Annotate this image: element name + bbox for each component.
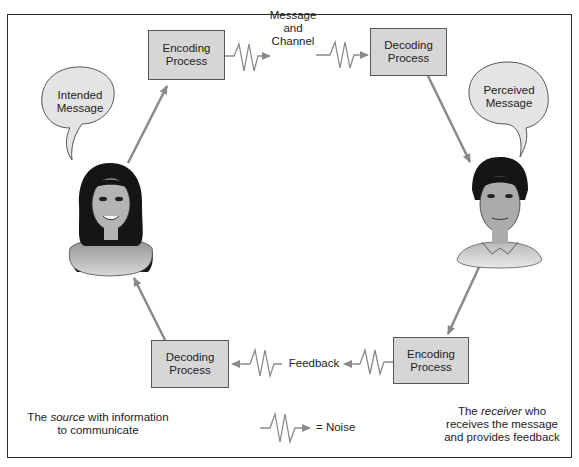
caption-post: with information xyxy=(85,411,169,423)
receiver-caption-line3: and provides feedback xyxy=(437,431,567,444)
encoding-process-box-top: Encoding Process xyxy=(148,30,225,80)
box-label-line2: Process xyxy=(163,55,211,68)
decoding-process-box-top: Decoding Process xyxy=(370,28,447,76)
channel-label-line1: Message xyxy=(268,9,318,22)
channel-label-line3: Channel xyxy=(268,35,318,48)
box-label-line2: Process xyxy=(166,364,215,377)
source-caption-line1: The source with information xyxy=(22,411,174,424)
receiver-caption-line2: receives the message xyxy=(437,418,567,431)
caption-emphasis: source xyxy=(50,411,85,423)
arrow-source-to-encoding xyxy=(128,86,167,163)
diagram-canvas xyxy=(0,0,579,467)
box-label-line1: Encoding xyxy=(407,348,455,361)
encoding-process-box-bottom: Encoding Process xyxy=(393,337,469,384)
box-label-line2: Process xyxy=(407,361,455,374)
arrow-decoding-to-receiver xyxy=(428,76,470,162)
box-label-line2: Process xyxy=(384,52,433,65)
channel-label-line2: and xyxy=(268,22,318,35)
arrow-receiver-to-encoding xyxy=(448,265,480,334)
source-caption: The source with information to communica… xyxy=(22,411,174,437)
bubble-line2: Message xyxy=(50,102,110,115)
bubble-line1: Perceived xyxy=(478,84,540,97)
box-label-line1: Decoding xyxy=(166,351,215,364)
caption-pre: The xyxy=(458,405,481,417)
source-caption-line2: to communicate xyxy=(22,424,174,437)
box-label-line1: Encoding xyxy=(163,42,211,55)
feedback-label: Feedback xyxy=(286,357,342,370)
caption-post: who xyxy=(522,405,546,417)
noise-legend-label: = Noise xyxy=(316,421,366,434)
intended-message-text: Intended Message xyxy=(50,89,110,115)
box-label-line1: Decoding xyxy=(384,39,433,52)
noise-zigzag-icon xyxy=(316,42,368,68)
receiver-caption-line1: The receiver who xyxy=(437,405,567,418)
receiver-caption: The receiver who receives the message an… xyxy=(437,405,567,444)
message-channel-label: Message and Channel xyxy=(268,9,318,48)
legend-noise-zigzag-icon xyxy=(260,414,310,442)
caption-emphasis: receiver xyxy=(481,405,522,417)
bubble-line2: Message xyxy=(478,97,540,110)
decoding-process-box-bottom: Decoding Process xyxy=(151,340,229,388)
perceived-message-text: Perceived Message xyxy=(478,84,540,110)
source-woman-figure xyxy=(69,163,152,276)
receiver-man-figure xyxy=(457,157,542,268)
noise-zigzag-icon xyxy=(232,350,282,376)
arrow-decoding-to-source xyxy=(134,278,165,340)
caption-pre: The xyxy=(27,411,50,423)
noise-zigzag-icon xyxy=(344,350,393,374)
noise-zigzag-icon xyxy=(225,44,270,71)
bubble-line1: Intended xyxy=(50,89,110,102)
